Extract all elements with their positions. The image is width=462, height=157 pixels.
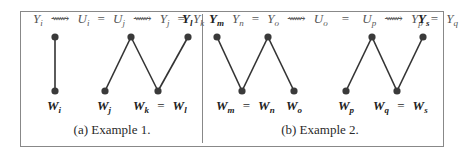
caption-a: (a) Example 1. [74, 122, 151, 137]
caption-b: (b) Example 2. [281, 122, 359, 137]
node-bottom [238, 87, 245, 94]
node-bottom [51, 87, 58, 94]
edge [346, 37, 372, 91]
edge [105, 37, 131, 91]
node-top [127, 33, 134, 40]
edge [217, 37, 242, 91]
label-wo: Wo [286, 98, 303, 115]
node-bottom [290, 87, 297, 94]
panel-a-top-label: Yi ⟿ Ui = Uj ⟿ Yj = Yk [33, 8, 205, 30]
node-top [264, 33, 271, 40]
node-bottom [393, 87, 400, 94]
label-wm-wn: Wm = Wn [216, 95, 275, 117]
edge [158, 37, 188, 91]
edge [242, 37, 268, 91]
panel-b-top-label-bold-end: Ys [418, 11, 430, 28]
node-top [368, 33, 375, 40]
node-top [213, 33, 220, 40]
node-bottom [154, 87, 161, 94]
label-wq-ws: Wq = Ws [373, 95, 428, 117]
node-bottom [342, 87, 349, 94]
panel-a-top-label-bold: Yl [182, 11, 193, 28]
label-wk-wl: Wk = Wl [133, 95, 187, 117]
label-wi: Wi [47, 98, 62, 115]
node-bottom [101, 87, 108, 94]
panel-a: Yi ⟿ Ui = Uj ⟿ Yj = Yk Yl Wi Wj [33, 8, 205, 137]
edge [268, 37, 294, 91]
edge [397, 37, 423, 91]
panel-b-top-label-bold-start: Ym [209, 11, 224, 28]
node-top [51, 33, 58, 40]
node-top [419, 33, 426, 40]
edge [131, 37, 158, 91]
edge [372, 37, 397, 91]
figure-canvas: Yi ⟿ Ui = Uj ⟿ Yj = Yk Yl Wi Wj [0, 0, 462, 157]
label-wj: Wj [97, 98, 112, 115]
node-top [184, 33, 191, 40]
panel-b: Ym Yn = Yo ⟿ Uo = Up ⟿ Yp = Yq Ys [209, 8, 458, 137]
label-wp: Wp [338, 98, 355, 115]
